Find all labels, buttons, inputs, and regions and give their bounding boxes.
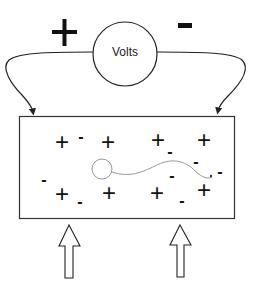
voltmeter-label: Volts bbox=[93, 44, 157, 60]
positive-charge: + bbox=[151, 128, 165, 152]
negative-charge: - bbox=[78, 129, 83, 145]
positive-charge: + bbox=[55, 182, 69, 206]
negative-terminal-symbol bbox=[178, 23, 192, 28]
positive-charge: + bbox=[197, 128, 211, 152]
positive-charge: + bbox=[55, 130, 69, 154]
negative-charge: - bbox=[41, 172, 46, 188]
positive-terminal-symbol bbox=[52, 19, 77, 46]
negative-charge: - bbox=[193, 154, 198, 170]
positive-charge: + bbox=[197, 178, 211, 202]
right-wire bbox=[157, 52, 245, 111]
right-up-arrow-icon bbox=[170, 225, 191, 277]
positive-charge: + bbox=[102, 181, 116, 205]
negative-charge: - bbox=[217, 164, 222, 180]
negative-charge: - bbox=[167, 144, 172, 160]
left-wire bbox=[6, 52, 93, 112]
particle-circle bbox=[92, 159, 112, 179]
negative-charge: - bbox=[179, 193, 184, 209]
left-up-arrow-icon bbox=[59, 225, 80, 278]
positive-charge: + bbox=[101, 130, 115, 154]
positive-charge: + bbox=[150, 181, 164, 205]
negative-charge: - bbox=[169, 168, 174, 184]
negative-charge: - bbox=[77, 194, 82, 210]
